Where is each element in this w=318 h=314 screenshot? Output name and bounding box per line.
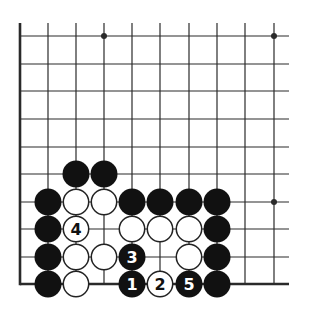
white-stone (176, 244, 201, 269)
move-number-label: 2 (154, 275, 165, 294)
black-stone (35, 189, 62, 216)
black-stone (204, 271, 231, 298)
black-stone-move-5: 5 (176, 271, 203, 298)
black-stone (204, 244, 231, 271)
white-stone (63, 189, 88, 214)
black-stone (204, 189, 231, 216)
black-stone (147, 189, 174, 216)
white-stone (91, 244, 116, 269)
black-stone (35, 244, 62, 271)
go-board: 43125 (0, 0, 318, 314)
black-stone (119, 189, 146, 216)
black-stone (35, 216, 62, 243)
white-stone (119, 216, 144, 241)
white-stone-move-4: 4 (63, 216, 88, 241)
black-stone-move-1: 1 (119, 271, 146, 298)
white-stone (63, 271, 88, 296)
black-stone (91, 161, 118, 188)
black-stone (176, 189, 203, 216)
white-stone (91, 189, 116, 214)
move-number-label: 5 (183, 275, 194, 294)
star-point-icon (101, 33, 107, 39)
white-stone (176, 216, 201, 241)
black-stone-move-3: 3 (119, 244, 146, 271)
grid-lines (20, 23, 289, 285)
white-stone (63, 244, 88, 269)
move-number-label: 4 (70, 220, 81, 239)
move-number-label: 3 (126, 248, 137, 267)
star-point-icon (271, 33, 277, 39)
white-stone (147, 216, 172, 241)
white-stone-move-2: 2 (147, 271, 172, 296)
move-number-label: 1 (126, 275, 137, 294)
black-stone (35, 271, 62, 298)
black-stone (204, 216, 231, 243)
star-point-icon (271, 199, 277, 205)
black-stone (63, 161, 90, 188)
